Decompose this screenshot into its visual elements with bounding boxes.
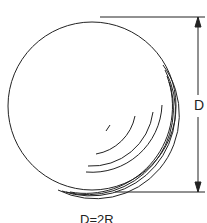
- shading-arcs: [58, 65, 179, 199]
- arrow-up-icon: [195, 17, 201, 27]
- dimension-label: D: [193, 97, 205, 113]
- sphere-diagram: [0, 0, 207, 223]
- arrow-down-icon: [195, 182, 201, 192]
- sphere-outline: [8, 22, 176, 190]
- formula-label: D=2R: [80, 212, 114, 223]
